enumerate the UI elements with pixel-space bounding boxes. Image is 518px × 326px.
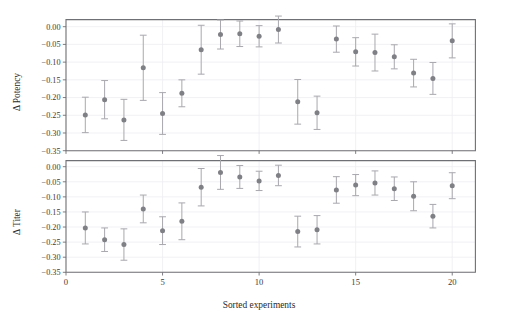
- data-marker: [237, 31, 242, 36]
- data-marker: [199, 185, 204, 190]
- data-marker: [334, 37, 339, 42]
- data-marker: [295, 99, 300, 104]
- ytick-label-titer-5: −0.25: [42, 238, 61, 247]
- ytick-label-titer-6: −0.30: [42, 253, 61, 262]
- data-marker: [450, 38, 455, 43]
- data-marker: [102, 97, 107, 102]
- ytick-label-potency-5: −0.25: [42, 111, 61, 120]
- data-marker: [218, 32, 223, 37]
- data-marker: [334, 187, 339, 192]
- ytick-label-potency-7: −0.35: [42, 147, 61, 156]
- ytick-label-potency-2: −0.10: [42, 58, 61, 67]
- data-marker: [199, 47, 204, 52]
- data-marker: [353, 183, 358, 188]
- data-marker: [430, 76, 435, 81]
- data-marker: [295, 229, 300, 234]
- xtick-label-1: 5: [160, 277, 164, 287]
- error-bar-chart: 0.00−0.05−0.10−0.15−0.20−0.25−0.30−0.35 …: [0, 0, 518, 326]
- data-marker: [257, 34, 262, 39]
- x-axis-label: Sorted experiments: [223, 300, 296, 310]
- y-axis-label-titer: Δ Titer: [12, 208, 22, 235]
- xtick-label-4: 20: [448, 277, 457, 287]
- data-marker: [218, 170, 223, 175]
- data-marker: [315, 110, 320, 115]
- data-marker: [276, 27, 281, 32]
- data-marker: [257, 178, 262, 183]
- ytick-label-potency-6: −0.30: [42, 129, 61, 138]
- data-marker: [83, 112, 88, 117]
- data-marker: [430, 214, 435, 219]
- data-marker: [141, 206, 146, 211]
- data-marker: [392, 186, 397, 191]
- ytick-label-titer-2: −0.10: [42, 193, 61, 202]
- xtick-label-2: 10: [255, 277, 264, 287]
- xtick-label-0: 0: [64, 277, 68, 287]
- data-marker: [237, 174, 242, 179]
- data-marker: [372, 50, 377, 55]
- data-marker: [276, 173, 281, 178]
- ytick-label-titer-0: 0.00: [46, 163, 60, 172]
- data-marker: [450, 183, 455, 188]
- data-marker: [411, 194, 416, 199]
- figure-container: 0.00−0.05−0.10−0.15−0.20−0.25−0.30−0.35 …: [0, 0, 518, 326]
- data-marker: [121, 117, 126, 122]
- data-marker: [353, 49, 358, 54]
- data-marker: [411, 71, 416, 76]
- ytick-label-titer-4: −0.20: [42, 223, 61, 232]
- ytick-label-titer-3: −0.15: [42, 208, 61, 217]
- data-marker: [372, 180, 377, 185]
- ytick-label-titer-7: −0.35: [42, 268, 61, 277]
- data-marker: [179, 219, 184, 224]
- ytick-label-potency-3: −0.15: [42, 76, 61, 85]
- data-marker: [392, 54, 397, 59]
- data-marker: [121, 242, 126, 247]
- y-axis-label-potency: Δ Potency: [12, 73, 22, 111]
- xtick-label-3: 15: [351, 277, 360, 287]
- data-marker: [102, 237, 107, 242]
- ytick-label-potency-1: −0.05: [42, 40, 61, 49]
- data-marker: [83, 225, 88, 230]
- ytick-label-potency-0: 0.00: [46, 23, 60, 32]
- data-marker: [141, 65, 146, 70]
- data-marker: [160, 111, 165, 116]
- ytick-label-titer-1: −0.05: [42, 178, 61, 187]
- data-marker: [179, 91, 184, 96]
- data-marker: [160, 228, 165, 233]
- ytick-label-potency-4: −0.20: [42, 93, 61, 102]
- data-marker: [315, 227, 320, 232]
